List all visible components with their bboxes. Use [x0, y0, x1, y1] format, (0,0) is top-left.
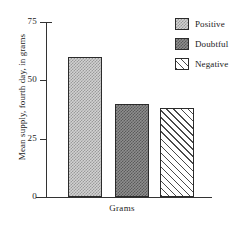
- legend-swatch-icon: [175, 58, 189, 70]
- x-axis-line: [36, 197, 212, 198]
- legend-label: Negative: [195, 59, 228, 69]
- legend-item-positive: Positive: [175, 16, 228, 32]
- y-axis-tick-label: 75: [28, 17, 37, 26]
- y-axis-title: Mean supply, fourth day, in grams: [17, 9, 27, 185]
- y-axis-tick: [40, 197, 46, 198]
- legend-label: Doubtful: [195, 39, 228, 49]
- bar-negative: [160, 108, 194, 197]
- bar-chart: 0255075 Mean supply, fourth day, in gram…: [0, 0, 246, 227]
- legend-item-negative: Negative: [175, 56, 228, 72]
- legend-item-doubtful: Doubtful: [175, 36, 228, 52]
- bar-doubtful: [115, 104, 149, 197]
- y-axis-tick-label: 50: [28, 75, 37, 84]
- y-axis-tick-label: 0: [32, 192, 37, 201]
- chart-legend: PositiveDoubtfulNegative: [175, 16, 228, 76]
- legend-swatch-icon: [175, 18, 189, 30]
- y-axis-tick-label: 25: [28, 134, 37, 143]
- bar-positive: [68, 57, 102, 197]
- legend-swatch-icon: [175, 38, 189, 50]
- x-axis-title: Grams: [46, 203, 198, 213]
- legend-label: Positive: [195, 19, 225, 29]
